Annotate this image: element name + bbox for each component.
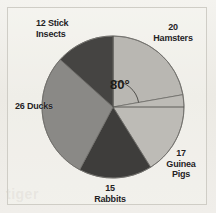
- slice-label-guinea-pigs: 17 Guinea Pigs: [156, 148, 206, 180]
- slice-label-hamsters: 20 Hamsters: [142, 22, 204, 43]
- angle-annotation-label: 80°: [110, 77, 130, 92]
- slice-label-ducks: 26 Ducks: [15, 101, 77, 112]
- slice-label-rabbits: 15 Rabbits: [78, 183, 142, 204]
- pie-chart-figure: mon rabbit tiger 12 Stick Insects 20 Ham…: [0, 0, 216, 213]
- slice-label-stick-insects: 12 Stick Insects: [36, 18, 98, 39]
